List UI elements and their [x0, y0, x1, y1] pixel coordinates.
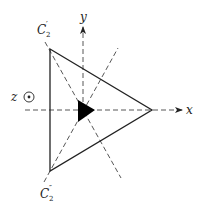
svg-text:C: C — [37, 23, 46, 37]
svg-text:C: C — [40, 187, 49, 201]
z-label: z — [10, 90, 18, 104]
y-label: y — [79, 10, 87, 24]
c3-symbol-icon — [78, 100, 95, 122]
svg-text:2: 2 — [46, 31, 50, 39]
svg-text:2: 2 — [49, 195, 53, 203]
z-out-of-page-icon — [24, 92, 34, 102]
c2-prime-label: C 2 ′ — [37, 19, 50, 39]
symmetry-diagram: z x y C 2 ′ C 2 ″ — [0, 0, 204, 213]
c2-double-prime-label: C 2 ″ — [40, 183, 53, 203]
svg-text:″: ″ — [49, 183, 52, 192]
svg-text:′: ′ — [46, 19, 48, 28]
x-label: x — [186, 103, 193, 117]
